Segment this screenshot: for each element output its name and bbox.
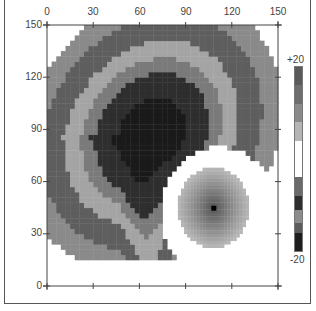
x-tick-150: 150 xyxy=(270,7,287,17)
colorbar-segment xyxy=(295,141,302,178)
colorbar-segment xyxy=(295,196,302,210)
x-tick-120: 120 xyxy=(224,7,241,17)
heatmap-plot xyxy=(0,0,316,311)
y-tick-0: 0 xyxy=(22,281,42,291)
y-tick-150: 150 xyxy=(22,20,42,30)
x-tick-60: 60 xyxy=(134,7,145,17)
y-tick-120: 120 xyxy=(22,72,42,82)
x-tick-90: 90 xyxy=(180,7,191,17)
colorbar-segment xyxy=(295,104,302,122)
colorbar-segment xyxy=(295,67,302,85)
colorbar-segment xyxy=(295,85,302,103)
colorbar-segment xyxy=(295,122,302,140)
colorbar xyxy=(294,66,303,252)
colorbar-segment xyxy=(295,233,302,251)
colorbar-min-label: -20 xyxy=(290,254,304,265)
colorbar-segment xyxy=(295,177,302,195)
colorbar-segment xyxy=(295,210,302,224)
colorbar-max-label: +20 xyxy=(287,54,304,65)
colorbar-segment xyxy=(295,223,302,232)
y-tick-30: 30 xyxy=(22,228,42,238)
y-tick-60: 60 xyxy=(22,176,42,186)
y-tick-90: 90 xyxy=(22,124,42,134)
x-tick-30: 30 xyxy=(87,7,98,17)
x-tick-0: 0 xyxy=(44,7,50,17)
